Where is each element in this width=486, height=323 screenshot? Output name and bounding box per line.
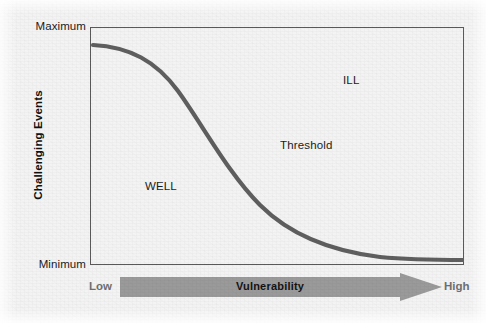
y-axis-max-label: Maximum [0, 20, 86, 32]
annotation-ill: ILL [343, 74, 359, 86]
vulnerability-threshold-figure: Maximum Minimum Challenging Events ILL T… [0, 0, 486, 323]
y-axis-title: Challenging Events [32, 60, 44, 230]
x-axis-title: Vulnerability [120, 280, 420, 292]
x-axis-arrow-row: Low Vulnerability High [0, 271, 486, 304]
threshold-curve [90, 27, 464, 265]
annotation-threshold: Threshold [280, 139, 333, 151]
curve-path [93, 45, 464, 260]
annotation-well: WELL [145, 180, 177, 192]
x-axis-low-label: Low [89, 280, 112, 292]
y-axis-min-label: Minimum [0, 258, 86, 270]
x-axis-high-label: High [444, 280, 470, 292]
